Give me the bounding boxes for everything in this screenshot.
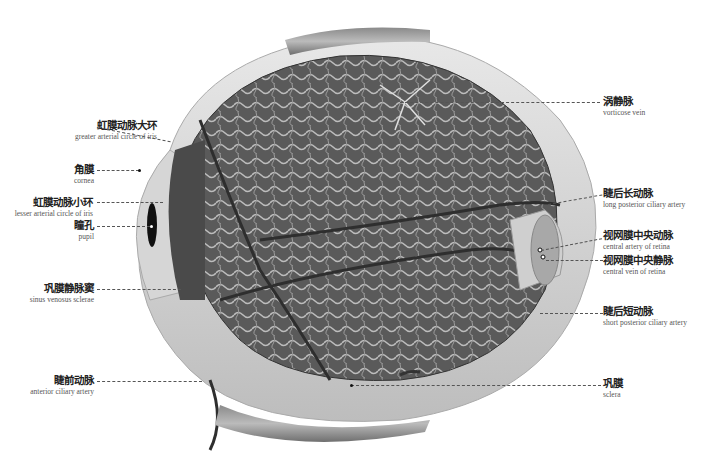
- label-zh: 睫后短动脉: [603, 306, 703, 318]
- label-en: central vein of retina: [603, 268, 673, 276]
- label-zh: 巩膜: [603, 378, 623, 390]
- leader-dot: [138, 169, 141, 172]
- label-pupil: 瞳孔 pupil: [74, 220, 94, 241]
- label-long-posterior-ciliary-artery: 睫后长动脉 long posterior ciliary artery: [603, 188, 703, 209]
- label-en: sinus venosus sclerae: [30, 296, 94, 304]
- label-cornea: 角膜 cornea: [74, 164, 94, 185]
- label-zh: 虹膜动脉小环: [15, 197, 93, 209]
- leader-line: [97, 289, 181, 290]
- label-zh: 涡静脉: [603, 96, 645, 108]
- label-zh: 视网膜中央静脉: [603, 255, 673, 267]
- leader-line: [97, 170, 139, 171]
- central-vein-dot: [541, 255, 545, 259]
- leader-dot: [350, 384, 353, 387]
- label-greater-arterial-circle: 虹膜动脉大环 greater arterial circle of iris: [7, 120, 157, 141]
- leader-line: [351, 385, 601, 386]
- label-central-vein-of-retina: 视网膜中央静脉 central vein of retina: [603, 255, 673, 276]
- label-en: cornea: [74, 177, 94, 185]
- choroid-vascular-layer: [185, 55, 557, 380]
- label-zh: 虹膜动脉大环: [7, 120, 157, 132]
- eye-anatomy-diagram: 虹膜动脉大环 greater arterial circle of iris 角…: [0, 0, 707, 464]
- label-zh: 视网膜中央动脉: [603, 230, 673, 242]
- eyeball-illustration: [0, 0, 707, 464]
- label-en: lesser arterial circle of iris: [15, 210, 93, 218]
- label-lesser-arterial-circle: 虹膜动脉小环 lesser arterial circle of iris: [15, 197, 93, 218]
- leader-dot: [150, 225, 153, 228]
- label-zh: 巩膜静脉窦: [30, 283, 94, 295]
- label-anterior-ciliary-artery: 睫前动脉 anterior ciliary artery: [30, 375, 94, 396]
- leader-line: [400, 102, 600, 103]
- leader-line: [97, 226, 150, 227]
- label-sinus-venosus-sclerae: 巩膜静脉窦 sinus venosus sclerae: [30, 283, 94, 304]
- label-zh: 睫后长动脉: [603, 188, 703, 200]
- leader-line: [546, 260, 603, 261]
- label-en: long posterior ciliary artery: [603, 201, 703, 209]
- label-sclera: 巩膜 sclera: [603, 378, 623, 399]
- label-zh: 角膜: [74, 164, 94, 176]
- label-zh: 瞳孔: [74, 220, 94, 232]
- label-short-posterior-ciliary-artery: 睫后短动脉 short posterior ciliary artery: [603, 306, 703, 327]
- label-vorticose-vein: 涡静脉 vorticose vein: [603, 96, 645, 117]
- label-zh: 睫前动脉: [30, 375, 94, 387]
- leader-line: [540, 313, 603, 314]
- label-en: short posterior ciliary artery: [603, 319, 703, 327]
- label-en: sclera: [603, 391, 623, 399]
- leader-line: [97, 381, 202, 382]
- label-en: anterior ciliary artery: [30, 388, 94, 396]
- leader-line: [97, 202, 163, 203]
- label-central-artery-of-retina: 视网膜中央动脉 central artery of retina: [603, 230, 673, 251]
- label-en: pupil: [74, 233, 94, 241]
- label-en: vorticose vein: [603, 109, 645, 117]
- label-en: central artery of retina: [603, 243, 673, 251]
